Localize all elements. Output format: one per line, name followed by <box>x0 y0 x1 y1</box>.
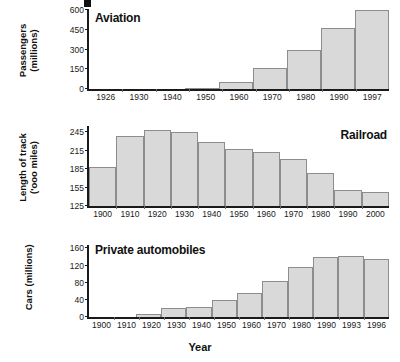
x-tick-mark <box>307 206 308 209</box>
bar <box>253 68 287 89</box>
x-tick-mark <box>189 317 190 320</box>
x-tick-label: 1950 <box>230 210 249 219</box>
x-tick-label: 1990 <box>317 321 336 330</box>
x-tick-label: 1960 <box>242 321 261 330</box>
x-tick-mark <box>122 89 123 92</box>
x-tick-mark <box>280 206 281 209</box>
bar <box>321 28 355 89</box>
y-tick-mark <box>85 29 89 30</box>
x-tick-label: 1930 <box>175 210 194 219</box>
bar <box>280 159 307 206</box>
bar <box>307 173 334 206</box>
x-tick-label: 1960 <box>230 93 249 102</box>
y-tick-mark <box>85 49 89 50</box>
x-axis-title-year: Year <box>0 341 400 353</box>
y-tick-mark <box>85 168 89 169</box>
y-tick-label: 150 <box>70 65 89 74</box>
y-tick-label: 245 <box>70 128 89 137</box>
bar <box>89 167 116 206</box>
x-tick-label: 1940 <box>192 321 211 330</box>
x-tick-mark <box>314 317 315 320</box>
y-tick-mark <box>85 299 89 300</box>
plot-area-aviation: 0150300450600 19261930194019501960197019… <box>87 10 389 91</box>
y-axis-title-line1: Length of track <box>17 133 28 202</box>
x-tick-label: 1930 <box>130 93 149 102</box>
x-tick-label: 1950 <box>196 93 215 102</box>
x-tick-label: 1920 <box>148 210 167 219</box>
x-tick-mark <box>222 89 223 92</box>
y-tick-label: 80 <box>75 278 89 287</box>
y-tick-label: 450 <box>70 26 89 35</box>
y-tick-label: 40 <box>75 296 89 305</box>
x-tick-label: 1960 <box>257 210 276 219</box>
x-tick-label: 1997 <box>363 93 382 102</box>
x-tick-label: 1980 <box>311 210 330 219</box>
y-tick-mark <box>85 316 89 317</box>
y-tick-label: 120 <box>70 261 89 270</box>
bar-group-private-automobiles <box>89 245 389 317</box>
x-tick-label: 1910 <box>120 210 139 219</box>
bar <box>338 256 363 317</box>
x-tick-label: 1990 <box>330 93 349 102</box>
x-tick-label: 1926 <box>96 93 115 102</box>
y-axis-title-line1: Passengers <box>17 24 28 77</box>
x-tick-mark <box>114 317 115 320</box>
plot-area-railroad: 125155185215245 190019101920193019401950… <box>87 126 389 208</box>
x-tick-mark <box>356 89 357 92</box>
y-tick-mark <box>85 282 89 283</box>
bar <box>161 308 186 317</box>
y-tick-label: 215 <box>70 146 89 155</box>
x-tick-mark <box>362 206 363 209</box>
y-axis-title-line2: ('ooo miles) <box>27 141 38 194</box>
x-tick-label: 1940 <box>202 210 221 219</box>
y-tick-label: 300 <box>70 45 89 54</box>
y-axis-title-line2: (millions) <box>27 29 38 71</box>
y-tick-label: 0 <box>79 313 89 322</box>
x-tick-label: 1940 <box>163 93 182 102</box>
x-tick-mark <box>144 206 145 209</box>
x-tick-label: 1970 <box>263 93 282 102</box>
y-axis-title-line1: Cars (millions) <box>23 244 34 310</box>
x-tick-label: 1930 <box>167 321 186 330</box>
bar <box>144 130 171 206</box>
x-tick-mark <box>225 206 226 209</box>
x-tick-label: 1970 <box>267 321 286 330</box>
bar <box>362 192 389 206</box>
y-tick-label: 600 <box>70 6 89 15</box>
y-tick-label: 160 <box>70 244 89 253</box>
y-axis-title-private-automobiles: Cars (millions) <box>24 234 35 320</box>
x-tick-label: 1980 <box>296 93 315 102</box>
x-tick-label: 1910 <box>117 321 136 330</box>
y-tick-label: 185 <box>70 165 89 174</box>
x-tick-mark <box>239 317 240 320</box>
bar <box>219 82 253 89</box>
y-tick-mark <box>85 68 89 69</box>
x-tick-mark <box>171 206 172 209</box>
y-tick-label: 155 <box>70 183 89 192</box>
bar <box>116 136 143 206</box>
x-tick-mark <box>289 317 290 320</box>
x-tick-label: 1920 <box>142 321 161 330</box>
bar-group-aviation <box>89 10 389 89</box>
x-tick-mark <box>289 89 290 92</box>
bar <box>171 132 198 206</box>
x-tick-mark <box>339 317 340 320</box>
x-tick-label: 1970 <box>284 210 303 219</box>
x-tick-label: 2000 <box>366 210 385 219</box>
x-tick-mark <box>264 317 265 320</box>
bar <box>237 293 262 317</box>
y-tick-mark <box>85 205 89 206</box>
x-tick-label: 1950 <box>217 321 236 330</box>
bar <box>185 88 219 89</box>
bar <box>313 257 338 317</box>
bar <box>287 50 321 89</box>
x-tick-label: 1900 <box>92 321 111 330</box>
y-tick-label: 125 <box>70 202 89 211</box>
x-tick-mark <box>189 89 190 92</box>
x-tick-label: 1996 <box>367 321 386 330</box>
y-axis-title-railroad: Length of track ('ooo miles) <box>18 121 39 215</box>
x-tick-mark <box>116 206 117 209</box>
x-tick-label: 1993 <box>342 321 361 330</box>
y-tick-label: 0 <box>79 85 89 94</box>
bar <box>355 10 389 89</box>
